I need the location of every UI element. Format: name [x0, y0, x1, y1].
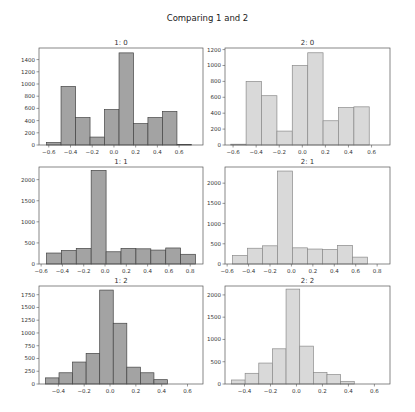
- histogram-bar: [162, 111, 176, 145]
- histogram-bar: [100, 290, 114, 384]
- x-tick-label: −0.6: [42, 149, 56, 155]
- histogram-bar: [308, 53, 323, 145]
- y-tick-label: 250: [25, 368, 36, 374]
- histogram-bar: [119, 53, 133, 145]
- histogram-bar: [338, 245, 353, 264]
- y-tick-label: 1200: [21, 69, 35, 75]
- subplot-title: 2: 2: [301, 277, 315, 285]
- y-tick-label: 500: [25, 355, 36, 361]
- y-tick-label: 1200: [207, 47, 221, 53]
- histogram-bar: [166, 248, 181, 264]
- y-tick-label: 0: [218, 261, 222, 267]
- histogram-bar: [327, 375, 341, 384]
- histogram-bar: [286, 289, 300, 384]
- subplot-title: 2: 1: [301, 158, 315, 166]
- histogram-bar: [121, 248, 136, 264]
- histogram-bar: [148, 118, 163, 145]
- y-tick-label: 1500: [207, 314, 221, 320]
- histogram-bar: [245, 373, 259, 384]
- x-tick-label: −0.2: [264, 388, 277, 394]
- histogram-bar: [61, 251, 76, 264]
- histogram-bar: [341, 381, 355, 384]
- x-tick-label: 0.2: [308, 268, 317, 274]
- histogram-bar: [263, 246, 278, 264]
- y-tick-label: 1000: [21, 81, 35, 87]
- x-tick-label: 0.6: [351, 268, 360, 274]
- histogram-bar: [292, 65, 307, 145]
- y-tick-label: 500: [211, 241, 222, 247]
- subplot-title: 1: 0: [114, 39, 128, 47]
- histogram-bar: [262, 96, 277, 145]
- x-tick-label: −0.4: [52, 388, 66, 394]
- x-tick-label: −0.6: [220, 268, 234, 274]
- subplot-title: 1: 1: [114, 158, 128, 166]
- histogram-bar: [46, 253, 61, 264]
- x-tick-label: 0.4: [153, 149, 162, 155]
- y-tick-label: 800: [211, 78, 222, 84]
- y-tick-label: 500: [25, 240, 36, 246]
- histogram-bar: [76, 248, 91, 264]
- histogram-bar: [293, 248, 308, 264]
- x-tick-label: 0.4: [344, 388, 353, 394]
- y-tick-label: 1500: [21, 304, 35, 310]
- x-tick-label: 0.4: [157, 388, 166, 394]
- histogram-bar: [300, 346, 314, 384]
- x-tick-label: 0.8: [373, 268, 382, 274]
- histogram-bar: [248, 248, 263, 264]
- y-tick-label: 600: [25, 105, 36, 111]
- y-tick-label: 0: [32, 142, 36, 148]
- y-tick-label: 1000: [21, 330, 35, 336]
- histogram-bar: [86, 353, 100, 384]
- histogram-bar: [104, 110, 119, 145]
- histogram-bar: [278, 171, 293, 264]
- histogram-bar: [323, 121, 338, 145]
- x-tick-label: −0.2: [78, 388, 91, 394]
- x-tick-label: 0.2: [318, 388, 327, 394]
- y-tick-label: 400: [211, 110, 222, 116]
- x-tick-label: 0.2: [131, 388, 140, 394]
- histogram-bar: [61, 86, 76, 145]
- y-tick-label: 1000: [21, 219, 35, 225]
- x-tick-label: 0.6: [183, 388, 192, 394]
- x-tick-label: 0.0: [298, 149, 307, 155]
- histogram-bar: [76, 118, 90, 145]
- x-tick-label: 0.0: [101, 268, 110, 274]
- histogram-bar: [91, 170, 106, 264]
- x-tick-label: 0.4: [344, 149, 353, 155]
- x-tick-label: 0.6: [370, 388, 379, 394]
- y-tick-label: 1000: [207, 221, 221, 227]
- histogram-bar: [354, 107, 369, 145]
- histogram-bar: [136, 249, 151, 264]
- histogram-bar: [140, 373, 154, 384]
- histogram-panel-2-2: 2: 2−0.4−0.20.00.20.40.60500100015002000: [207, 277, 390, 394]
- y-tick-label: 0: [218, 381, 222, 387]
- histogram-panel-1-0: 1: 0−0.6−0.4−0.20.00.20.40.6020040060080…: [21, 39, 203, 155]
- x-tick-label: −0.2: [273, 149, 286, 155]
- y-tick-label: 0: [218, 142, 222, 148]
- histogram-bar: [272, 349, 286, 384]
- x-tick-label: 0.0: [292, 388, 301, 394]
- x-tick-label: −0.6: [34, 268, 48, 274]
- histogram-bar: [133, 124, 147, 145]
- y-tick-label: 800: [25, 93, 36, 99]
- histogram-panel-1-1: 1: 1−0.6−0.4−0.20.00.20.40.60.8050010001…: [21, 158, 203, 274]
- x-tick-label: 0.0: [106, 388, 115, 394]
- y-tick-label: 2000: [207, 180, 221, 186]
- y-tick-label: 2000: [207, 292, 221, 298]
- histogram-bar: [151, 250, 166, 264]
- histogram-bar: [323, 249, 338, 264]
- x-tick-label: 0.6: [367, 149, 376, 155]
- histogram-bar: [313, 372, 327, 384]
- x-tick-label: −0.4: [238, 388, 252, 394]
- histogram-panel-2-1: 2: 1−0.6−0.4−0.20.00.20.40.60.8050010001…: [207, 158, 390, 274]
- y-tick-label: 1000: [207, 336, 221, 342]
- histogram-bar: [246, 81, 261, 145]
- x-tick-label: 0.2: [122, 268, 131, 274]
- y-tick-label: 2000: [21, 177, 35, 183]
- histogram-bar: [106, 252, 121, 264]
- y-tick-label: 0: [32, 381, 36, 387]
- y-tick-label: 1500: [207, 200, 221, 206]
- histogram-grid: 1: 0−0.6−0.4−0.20.00.20.40.6020040060080…: [0, 0, 415, 412]
- x-tick-label: 0.0: [110, 149, 119, 155]
- histogram-panel-2-0: 2: 0−0.6−0.4−0.20.00.20.40.6020040060080…: [207, 39, 390, 155]
